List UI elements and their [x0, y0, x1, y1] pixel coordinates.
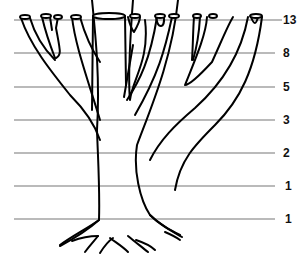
tree-drawing [20, 0, 262, 253]
level-label-5: 5 [283, 81, 290, 93]
level-lines [14, 20, 282, 219]
level-label-1b: 1 [285, 213, 292, 225]
level-label-13: 13 [283, 14, 296, 26]
level-label-3: 3 [283, 114, 290, 126]
level-label-1a: 1 [285, 180, 292, 192]
tree-diagram [0, 0, 306, 267]
level-label-8: 8 [283, 47, 290, 59]
level-label-2: 2 [283, 147, 290, 159]
